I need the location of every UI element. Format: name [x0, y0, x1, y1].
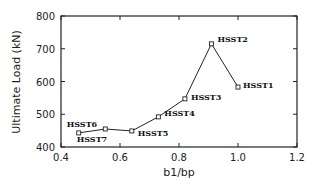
data-point-marker [236, 85, 240, 89]
data-point-marker [156, 115, 160, 119]
data-point-marker [183, 97, 187, 101]
point-labels: HSST7HSST6HSST5HSST4HSST3HSST2HSST1 [67, 34, 274, 144]
data-series [77, 42, 240, 135]
point-label: HSST4 [164, 108, 195, 118]
data-point-marker [209, 42, 213, 46]
y-tick-label: 500 [36, 109, 55, 120]
point-label: HSST2 [217, 34, 247, 44]
data-point-marker [130, 129, 134, 133]
x-axis-label: b1/bp [163, 166, 195, 179]
series-line [79, 44, 238, 133]
x-tick-label: 0.6 [112, 152, 128, 163]
y-tick-label: 600 [36, 77, 55, 88]
data-point-marker [103, 127, 107, 131]
x-tick-label: 0.4 [53, 152, 69, 163]
y-tick-label: 400 [36, 142, 55, 153]
x-tick-label: 1.2 [289, 152, 305, 163]
point-label: HSST5 [138, 128, 168, 138]
y-axis-label: Ultimate Load (kN) [10, 30, 23, 134]
point-label: HSST1 [243, 80, 273, 90]
point-label: HSST3 [191, 92, 222, 102]
x-tick-label: 0.8 [171, 152, 187, 163]
x-tick-label: 1.0 [230, 152, 246, 163]
chart: 0.40.60.81.01.2400500600700800 HSST7HSST… [0, 0, 320, 191]
y-tick-label: 800 [36, 11, 55, 22]
point-label: HSST7 [77, 134, 107, 144]
point-label: HSST6 [67, 119, 98, 129]
y-tick-label: 700 [36, 44, 55, 55]
